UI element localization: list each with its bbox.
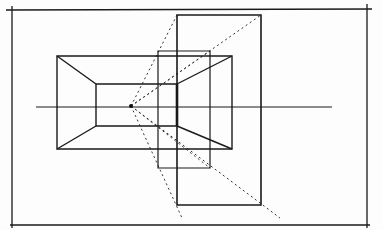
tall-picture-plane-rectangle [177,15,261,205]
vanishing-point [129,104,133,108]
perspective-diagram [0,0,383,230]
dotted-projection-rays [131,15,280,218]
inner-back-wall [96,84,177,126]
middle-rectangle [158,51,210,168]
outer-frame [6,4,372,228]
outer-box-room [57,56,232,149]
